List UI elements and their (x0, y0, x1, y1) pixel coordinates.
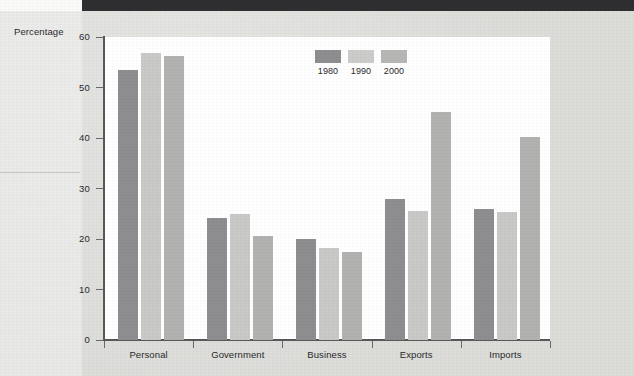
y-axis-tick-label: 20 (50, 233, 90, 244)
y-axis-tick-label: 60 (50, 31, 90, 42)
y-axis-tick (96, 37, 103, 38)
legend-label-1980: 1980 (312, 66, 344, 76)
bar-government-1990 (230, 214, 250, 340)
x-axis-tick (372, 341, 373, 348)
bar-business-2000 (342, 252, 362, 340)
bar-exports-2000 (431, 112, 451, 340)
x-axis-label-business: Business (282, 349, 371, 360)
bar-imports-1980 (474, 209, 494, 340)
y-axis-tick (96, 239, 103, 240)
bars-layer (104, 37, 550, 340)
bar-personal-1980 (118, 70, 138, 340)
bar-imports-2000 (520, 137, 540, 340)
x-axis-label-exports: Exports (372, 349, 461, 360)
y-axis-tick (96, 340, 103, 341)
bar-personal-1990 (141, 53, 161, 340)
x-axis-tick (193, 341, 194, 348)
y-axis-tick (96, 289, 103, 290)
y-axis-tick-label: 0 (50, 334, 90, 345)
y-axis-tick-label: 40 (50, 132, 90, 143)
y-axis-tick (96, 138, 103, 139)
bar-government-1980 (207, 218, 227, 340)
bar-business-1980 (296, 239, 316, 341)
legend-label-1990: 1990 (345, 66, 377, 76)
bar-exports-1990 (408, 211, 428, 340)
bar-government-2000 (253, 236, 273, 340)
x-axis-tick (550, 341, 551, 348)
bar-personal-2000 (164, 56, 184, 340)
y-axis-tick-label: 50 (50, 82, 90, 93)
legend-swatch-1990 (348, 50, 374, 63)
bar-business-1990 (319, 248, 339, 340)
x-axis-label-government: Government (193, 349, 282, 360)
bar-chart-figure: Percentage 0102030405060 PersonalGovernm… (0, 0, 634, 376)
x-axis-label-imports: Imports (461, 349, 550, 360)
bar-exports-1980 (385, 199, 405, 340)
legend-swatch-2000 (381, 50, 407, 63)
x-axis-label-personal: Personal (104, 349, 193, 360)
bar-imports-1990 (497, 212, 517, 340)
x-axis-tick (282, 341, 283, 348)
legend-swatch-1980 (315, 50, 341, 63)
x-axis-tick (461, 341, 462, 348)
y-axis-tick (96, 188, 103, 189)
chart-legend: 1980 1990 2000 (315, 50, 420, 80)
x-axis-tick (104, 341, 105, 348)
y-axis-tick-label: 10 (50, 284, 90, 295)
legend-label-2000: 2000 (378, 66, 410, 76)
y-axis-tick (96, 87, 103, 88)
y-axis-tick-label: 30 (50, 183, 90, 194)
